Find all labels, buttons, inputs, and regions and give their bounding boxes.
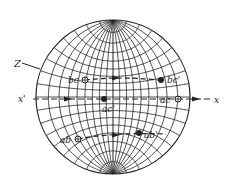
ab-start-label: ab	[60, 135, 71, 145]
wulff-net-diagram: Z x' x bc bc' ac' ac ab ab'	[0, 0, 226, 195]
ac-start-marker	[101, 96, 107, 102]
z-axis-label: Z	[13, 58, 22, 69]
ab-end-marker	[136, 130, 142, 136]
ac-right-arrow-icon	[192, 97, 200, 102]
bc-start-marker	[82, 77, 88, 83]
ac-start-label: ac'	[102, 104, 115, 114]
ac-end-marker	[175, 96, 181, 102]
bc-end-marker	[158, 77, 164, 83]
x-label: x	[214, 95, 219, 105]
ac-end-label: ac	[160, 95, 170, 105]
z-axis-tick	[22, 63, 40, 69]
x-prime-label: x'	[18, 94, 26, 104]
bc-start-label: bc	[68, 75, 79, 85]
bc-end-label: bc'	[167, 75, 180, 85]
ab-end-label: ab'	[144, 130, 158, 140]
ab-start-marker	[75, 136, 81, 142]
